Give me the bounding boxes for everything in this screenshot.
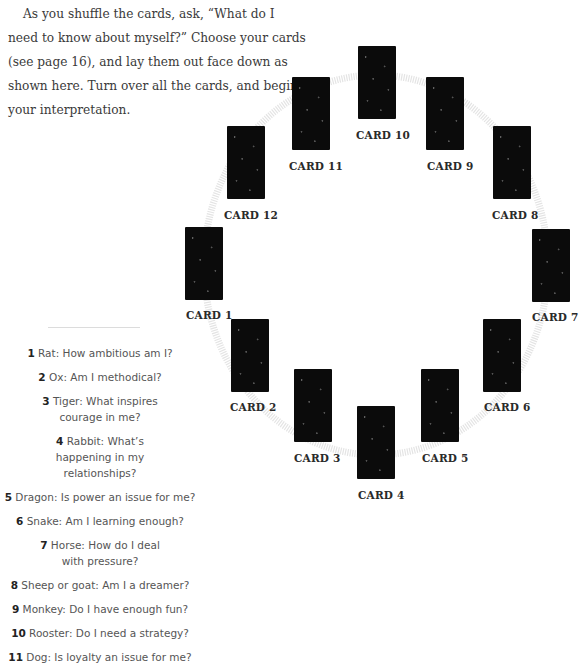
card-back-5	[421, 369, 459, 442]
question-text: Rabbit: What’s happening in my relations…	[56, 435, 144, 479]
question-text: Rat: How ambitious am I?	[35, 347, 173, 359]
question-item: 1 Rat: How ambitious am I?	[0, 345, 200, 361]
card-label-6: CARD 6	[484, 401, 531, 413]
question-number: 2	[38, 371, 45, 383]
card-label-11: CARD 11	[289, 160, 343, 172]
question-item: 11 Dog: Is loyalty an issue for me?	[0, 649, 200, 665]
question-item: 9 Monkey: Do I have enough fun?	[0, 601, 200, 617]
question-number: 3	[42, 395, 49, 407]
question-item: 6 Snake: Am I learning enough?	[0, 513, 200, 529]
question-text: Monkey: Do I have enough fun?	[19, 603, 188, 615]
question-number: 1	[27, 347, 34, 359]
question-list: 1 Rat: How ambitious am I?2 Ox: Am I met…	[0, 345, 200, 667]
card-label-4: CARD 4	[358, 489, 405, 501]
card-back-12	[227, 126, 265, 199]
card-back-8	[493, 126, 531, 199]
question-item: 4 Rabbit: What’s happening in my relatio…	[0, 433, 200, 481]
card-label-2: CARD 2	[230, 401, 277, 413]
card-label-8: CARD 8	[492, 209, 539, 221]
question-text: Dog: Is loyalty an issue for me?	[23, 651, 192, 663]
card-back-7	[532, 229, 570, 302]
card-back-10	[358, 46, 396, 119]
question-item: 3 Tiger: What inspires courage in me?	[0, 393, 200, 425]
card-back-2	[231, 319, 269, 392]
card-back-3	[294, 369, 332, 442]
card-back-6	[483, 319, 521, 392]
card-label-12: CARD 12	[224, 209, 278, 221]
question-text: Tiger: What inspires courage in me?	[50, 395, 158, 423]
card-label-9: CARD 9	[427, 160, 474, 172]
question-text: Horse: How do I deal with pressure?	[47, 539, 159, 567]
card-back-9	[426, 77, 464, 150]
question-item: 5 Dragon: Is power an issue for me?	[0, 489, 200, 505]
question-text: Dragon: Is power an issue for me?	[12, 491, 195, 503]
card-label-10: CARD 10	[356, 129, 410, 141]
question-number: 10	[11, 627, 26, 639]
card-label-5: CARD 5	[422, 452, 469, 464]
question-item: 7 Horse: How do I deal with pressure?	[0, 537, 200, 569]
question-number: 8	[11, 579, 18, 591]
question-text: Rooster: Do I need a strategy?	[26, 627, 189, 639]
question-text: Sheep or goat: Am I a dreamer?	[18, 579, 189, 591]
card-back-11	[292, 77, 330, 150]
question-text: Snake: Am I learning enough?	[23, 515, 184, 527]
card-label-7: CARD 7	[532, 311, 579, 323]
card-back-4	[357, 406, 395, 479]
question-item: 2 Ox: Am I methodical?	[0, 369, 200, 385]
question-number: 11	[8, 651, 23, 663]
card-label-3: CARD 3	[294, 452, 341, 464]
question-item: 10 Rooster: Do I need a strategy?	[0, 625, 200, 641]
question-item: 8 Sheep or goat: Am I a dreamer?	[0, 577, 200, 593]
card-back-1	[185, 227, 223, 300]
divider-line	[48, 327, 140, 328]
question-number: 5	[5, 491, 12, 503]
card-label-1: CARD 1	[186, 309, 233, 321]
question-text: Ox: Am I methodical?	[46, 371, 162, 383]
